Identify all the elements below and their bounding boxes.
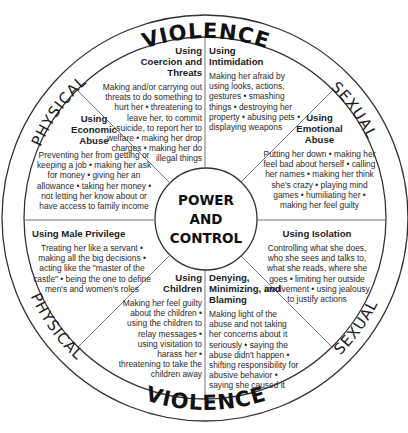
sector-title: Denying, Minimizing, and Blaming — [209, 272, 301, 305]
sector-economic-abuse: Using Economic Abuse Preventing her from… — [32, 113, 156, 211]
sector-title: Using Emotional Abuse — [262, 112, 377, 145]
sector-body: Preventing her from getting or keeping a… — [32, 150, 156, 211]
sector-title: Using Isolation — [256, 228, 378, 239]
sector-male-privilege: Using Male Privilege Treating her like a… — [32, 228, 152, 294]
sector-body: Putting her down • making her feel bad a… — [262, 149, 377, 210]
ring-bottom-left-text: PHYSICAL — [27, 290, 87, 364]
sector-title: Using Intimidation — [209, 45, 307, 67]
sector-body: Making light of the abuse and not taking… — [209, 309, 301, 391]
sector-title: Using Male Privilege — [32, 228, 152, 239]
sector-emotional-abuse: Using Emotional Abuse Putting her down •… — [262, 112, 377, 210]
sector-title: Using Coercion and Threats — [100, 45, 202, 78]
ring-bottom-right-text: SEXUAL — [330, 297, 382, 359]
hub-label: POWER AND CONTROL — [155, 168, 257, 270]
hub-line-3: CONTROL — [170, 229, 242, 248]
sector-denying-minimizing-blaming: Denying, Minimizing, and Blaming Making … — [209, 272, 301, 391]
sector-body: Making her feel guilty about the childre… — [116, 298, 202, 380]
sector-title: Using Economic Abuse — [32, 113, 156, 146]
hub-line-2: AND — [190, 210, 223, 229]
sector-body: Treating her like a servant • making all… — [32, 243, 152, 294]
hub-line-1: POWER — [178, 191, 234, 210]
